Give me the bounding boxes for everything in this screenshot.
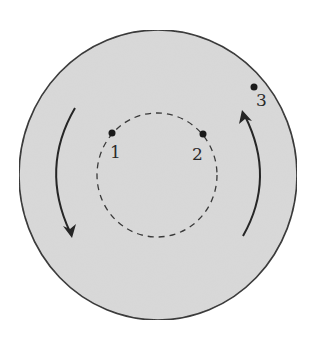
point-2-label: 2 bbox=[192, 144, 203, 164]
outer-disk bbox=[19, 30, 297, 320]
point-3-label: 3 bbox=[256, 90, 267, 110]
point-1-label: 1 bbox=[110, 142, 121, 162]
point-2-dot bbox=[200, 131, 207, 138]
point-1-dot bbox=[109, 130, 116, 137]
rotating-disk-diagram: 1 2 3 bbox=[0, 0, 309, 337]
